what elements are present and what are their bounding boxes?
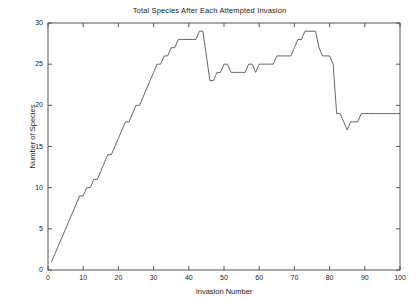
chart-title: Total Species After Each Attempted Invas… (0, 6, 419, 15)
x-tick-label: 0 (33, 274, 63, 281)
data-series-line (52, 31, 400, 262)
y-tick-marks (48, 23, 400, 270)
y-tick-label: 25 (17, 60, 43, 67)
x-tick-label: 20 (103, 274, 133, 281)
x-tick-label: 50 (209, 274, 239, 281)
plot-svg (48, 23, 400, 270)
x-tick-label: 60 (244, 274, 274, 281)
x-tick-label: 100 (385, 274, 415, 281)
x-tick-label: 10 (68, 274, 98, 281)
x-tick-label: 70 (279, 274, 309, 281)
y-tick-label: 0 (17, 266, 43, 273)
x-tick-label: 30 (139, 274, 169, 281)
y-tick-label: 5 (17, 225, 43, 232)
axis-frame (48, 23, 400, 270)
plot-area (48, 23, 400, 270)
x-tick-marks (48, 23, 400, 270)
x-axis-label: Invasion Number (48, 287, 400, 296)
x-tick-label: 40 (174, 274, 204, 281)
x-tick-label: 90 (350, 274, 380, 281)
x-tick-label: 80 (315, 274, 345, 281)
y-axis-label: Number of Species (28, 77, 37, 197)
y-tick-label: 30 (17, 19, 43, 26)
chart-figure: Total Species After Each Attempted Invas… (0, 0, 419, 302)
